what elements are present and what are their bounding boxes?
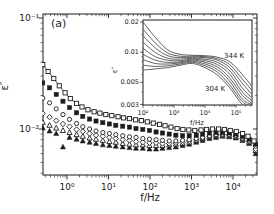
open-square-marker: [63, 91, 67, 95]
filled-triangle-marker: [100, 142, 105, 147]
open-circle-marker: [54, 107, 58, 111]
open-circle-marker: [41, 96, 45, 100]
open-square-marker: [222, 127, 226, 131]
filled-square-marker: [87, 117, 91, 121]
open-circle-marker: [121, 134, 125, 138]
series-open-triangle: [40, 120, 258, 153]
open-circle-marker: [141, 136, 145, 140]
filled-square-marker: [127, 125, 131, 129]
filled-square-marker: [81, 114, 85, 118]
main-x-tick-label: 10⁴: [225, 182, 240, 192]
open-circle-marker: [81, 125, 85, 129]
open-circle-marker: [154, 138, 158, 142]
open-circle-marker: [127, 135, 131, 139]
filled-square-marker: [134, 126, 138, 130]
inset-y-tick-label: 0.005: [120, 78, 139, 86]
inset-y-tick-label: 0.02: [125, 18, 139, 26]
filled-square-marker: [147, 128, 151, 132]
open-square-marker: [86, 108, 90, 112]
open-square-marker: [139, 119, 143, 123]
open-square-marker: [169, 125, 173, 129]
filled-triangle-marker: [67, 135, 72, 140]
open-square-marker: [127, 117, 131, 121]
open-square-marker: [246, 134, 250, 138]
inset-annotation: 344 K: [224, 52, 245, 60]
open-square-marker: [104, 112, 108, 116]
main-x-axis-label: f/Hz: [140, 192, 160, 203]
filled-triangle-marker: [80, 138, 85, 143]
open-circle-marker: [107, 131, 111, 135]
open-triangle-marker: [67, 130, 72, 135]
open-circle-marker: [74, 121, 78, 125]
open-square-marker: [157, 122, 161, 126]
inset-y-axis-label: ε″: [111, 66, 119, 73]
filled-square-marker: [54, 92, 58, 96]
dielectric-loss-figure: 10⁰10¹10²10³10⁴10⁻¹10⁻² 10²10³10⁴10⁵0.02…: [0, 0, 274, 214]
open-square-marker: [181, 127, 185, 131]
filled-square-marker: [174, 133, 178, 137]
open-diamond-marker: [87, 131, 92, 136]
open-circle-marker: [174, 139, 178, 143]
open-square-marker: [68, 96, 72, 100]
main-x-tick-label: 10⁰: [59, 182, 74, 192]
open-square-marker: [199, 128, 203, 132]
main-y-tick-label: 10⁻¹: [19, 13, 39, 23]
open-square-marker: [151, 121, 155, 125]
open-diamond-marker: [47, 114, 52, 119]
filled-square-marker: [47, 86, 51, 90]
open-square-marker: [217, 127, 221, 131]
open-circle-marker: [101, 130, 105, 134]
open-square-marker: [134, 118, 138, 122]
filled-triangle-marker: [54, 131, 59, 136]
filled-square-marker: [121, 124, 125, 128]
plot-canvas: 10⁰10¹10²10³10⁴10⁻¹10⁻² 10²10³10⁴10⁵0.02…: [0, 0, 274, 214]
open-circle-marker: [67, 117, 71, 121]
open-square-marker: [187, 128, 191, 132]
open-triangle-marker: [60, 128, 65, 133]
filled-square-marker: [180, 134, 184, 138]
filled-square-marker: [67, 105, 71, 109]
open-square-marker: [228, 128, 232, 132]
main-y-tick-label: 10⁻²: [19, 124, 39, 134]
open-square-marker: [145, 120, 149, 124]
filled-square-marker: [107, 122, 111, 126]
open-circle-marker: [180, 138, 184, 142]
open-square-marker: [46, 69, 50, 73]
open-square-marker: [175, 126, 179, 130]
open-diamond-marker: [54, 118, 59, 123]
open-circle-marker: [187, 138, 191, 142]
open-square-marker: [52, 76, 56, 80]
open-circle-marker: [167, 139, 171, 143]
open-circle-marker: [114, 133, 118, 137]
open-square-marker: [193, 128, 197, 132]
open-diamond-marker: [40, 111, 45, 116]
inset-x-tick-label: 10⁵: [231, 109, 242, 117]
filled-square-marker: [101, 121, 105, 125]
open-square-marker: [110, 114, 114, 118]
filled-triangle-marker: [47, 128, 52, 133]
inset-frame: [143, 20, 252, 105]
inset-x-axis-label: f/Hz: [190, 119, 204, 127]
open-diamond-marker: [80, 129, 85, 134]
open-triangle-marker: [47, 123, 52, 128]
open-triangle-marker: [40, 120, 45, 125]
open-triangle-marker: [54, 125, 59, 130]
main-x-tick-label: 10²: [142, 182, 157, 192]
inset-y-tick-label: 0.01: [125, 48, 139, 56]
inset-plot: [143, 20, 252, 105]
inset-annotation: 304 K: [205, 85, 226, 93]
panel-label: (a): [51, 17, 66, 30]
filled-square-marker: [61, 99, 65, 103]
open-square-marker: [240, 131, 244, 135]
open-square-marker: [121, 116, 125, 120]
filled-triangle-marker: [74, 136, 79, 141]
open-circle-marker: [61, 112, 65, 116]
filled-triangle-marker: [60, 144, 65, 149]
inset-x-tick-label: 10⁴: [200, 109, 211, 117]
open-circle-marker: [147, 137, 151, 141]
main-y-axis-label: ε″: [0, 81, 10, 90]
filled-square-marker: [154, 130, 158, 134]
open-square-marker: [92, 110, 96, 114]
open-circle-marker: [87, 127, 91, 131]
filled-square-marker: [194, 133, 198, 137]
